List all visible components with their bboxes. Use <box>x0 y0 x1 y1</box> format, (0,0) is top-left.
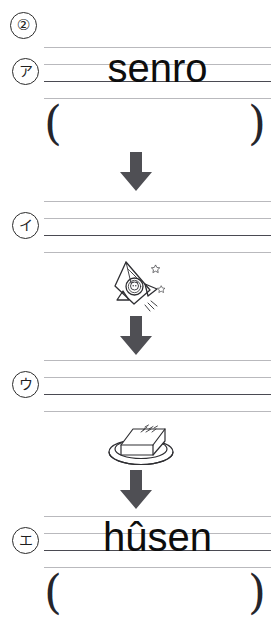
romaji-word-i <box>44 195 271 253</box>
paren-close-a: ) <box>248 100 266 146</box>
item-marker-u: ウ <box>12 371 39 398</box>
romaji-word-u <box>44 354 271 412</box>
writing-lines-a[interactable]: senro <box>44 47 271 99</box>
writing-lines-e[interactable]: hûsen <box>44 516 271 568</box>
paren-open-e: ( <box>44 569 62 615</box>
item-marker-a: ア <box>12 58 39 85</box>
romaji-word-a: senro <box>44 41 271 99</box>
item-marker-e: エ <box>12 527 39 554</box>
tofu-block-on-plate-illustration <box>102 414 180 468</box>
writing-lines-u[interactable] <box>44 360 271 412</box>
down-arrow-2-icon <box>119 316 153 356</box>
romaji-word-e: hûsen <box>44 510 271 568</box>
down-arrow-3-icon <box>119 470 153 510</box>
writing-lines-i[interactable] <box>44 201 271 253</box>
answer-paren-row-e[interactable]: ( ) <box>44 569 266 613</box>
item-marker-i: イ <box>12 212 39 239</box>
answer-paren-row-a[interactable]: ( ) <box>44 100 266 144</box>
paren-open-a: ( <box>44 100 62 146</box>
rocket-with-character-illustration <box>104 256 176 318</box>
question-number-marker: ② <box>10 12 37 39</box>
down-arrow-1-icon <box>119 152 153 192</box>
paren-close-e: ) <box>248 569 266 615</box>
